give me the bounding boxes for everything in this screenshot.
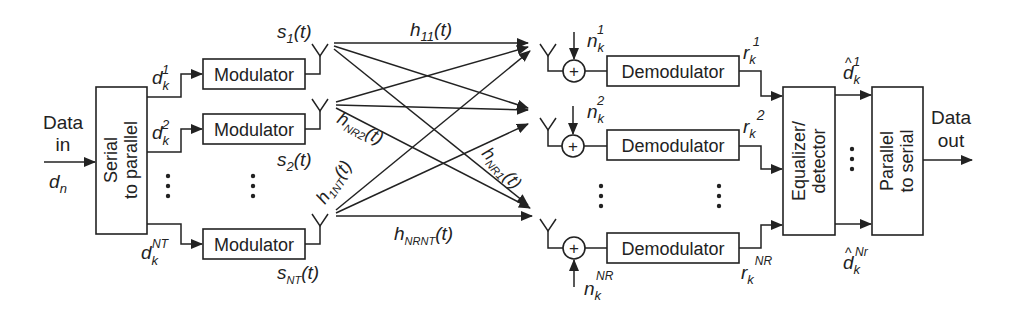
modulator-nt: Modulator <box>203 229 305 259</box>
svg-text:+: + <box>568 137 578 156</box>
s1-label: s1(t) <box>277 21 312 46</box>
dn-symbol: dn <box>49 171 67 196</box>
dk2-label: dk2 <box>152 117 171 148</box>
svg-text:in: in <box>56 134 71 155</box>
svg-text:Modulator: Modulator <box>214 120 294 140</box>
data-out-label: Data out <box>931 107 972 151</box>
svg-text:Modulator: Modulator <box>214 65 294 85</box>
dk1-label: dk1 <box>152 62 171 93</box>
parallel-to-serial-label: Parallel to serial <box>877 129 917 192</box>
svg-text:Demodulator: Demodulator <box>621 239 724 259</box>
h11-label: h11(t) <box>410 19 452 44</box>
dhatnr-label: ^ dkNr <box>843 245 869 277</box>
equalizer-detector-label: Equalizer/ detector <box>789 121 829 201</box>
svg-text:+: + <box>569 239 579 258</box>
demod-output-nr <box>739 225 782 248</box>
rx-ellipsis-left <box>599 184 603 208</box>
svg-text:Demodulator: Demodulator <box>621 62 724 82</box>
modulator-1: Modulator <box>203 59 305 89</box>
rknr-label: rkNR <box>741 254 772 287</box>
svg-text:Data: Data <box>43 112 84 133</box>
svg-text:out: out <box>938 130 965 151</box>
demodulator-nr: Demodulator <box>607 233 739 263</box>
tx-ellipsis-left <box>166 174 170 198</box>
h1nt-label: h1NT(t) <box>312 157 357 209</box>
rk1-label: rk1 <box>743 34 760 67</box>
demodulator-2: Demodulator <box>607 130 739 160</box>
hnrnt-label: hNRNT(t) <box>394 223 453 247</box>
nknr-label: nkNR <box>584 269 614 303</box>
demod-output-1 <box>739 71 782 96</box>
svg-text:Equalizer/: Equalizer/ <box>789 121 809 201</box>
modulator-2: Modulator <box>203 114 305 144</box>
snt-label: sNT(t) <box>277 262 319 286</box>
tx-antenna-1 <box>305 44 328 74</box>
tx-antenna-2 <box>305 99 328 129</box>
data-in-label: Data in dn <box>43 112 84 196</box>
rk2-label: rk2 <box>743 107 765 141</box>
svg-text:Modulator: Modulator <box>214 235 294 255</box>
svg-text:Parallel: Parallel <box>877 131 897 191</box>
demod-output-2 <box>739 146 782 169</box>
rx-antenna-1 <box>540 44 563 71</box>
tx-ellipsis-right <box>251 174 255 198</box>
nk1-label: nk1 <box>587 22 606 55</box>
svg-text:Demodulator: Demodulator <box>621 136 724 156</box>
dknt-label: dkNT <box>141 237 170 268</box>
dhat1-label: ^ dk1 <box>843 54 862 87</box>
eq-ellipsis <box>850 147 854 171</box>
svg-text:+: + <box>569 62 579 81</box>
demodulator-1: Demodulator <box>607 56 739 86</box>
rx-antenna-nr <box>540 219 563 248</box>
hnr2-label: hNR2(t) <box>333 108 387 150</box>
svg-text:to parallel: to parallel <box>121 121 141 199</box>
svg-text:to serial: to serial <box>897 129 917 192</box>
rx-antenna-2 <box>540 118 562 146</box>
mimo-diagram: Data in dn Serial to parallel dk1 dk2 dk… <box>0 0 1013 314</box>
rx-ellipsis-right <box>717 184 721 208</box>
s2-label: s2(t) <box>277 149 312 174</box>
svg-text:detector: detector <box>809 128 829 193</box>
nk2-label: nk2 <box>587 93 606 126</box>
svg-text:Data: Data <box>931 107 972 128</box>
tx-antenna-nt <box>305 214 328 244</box>
svg-text:Serial: Serial <box>101 137 121 183</box>
